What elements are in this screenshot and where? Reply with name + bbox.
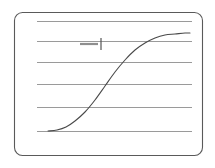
figure-container: 1 (0, 0, 215, 168)
chart-svg (0, 0, 215, 168)
